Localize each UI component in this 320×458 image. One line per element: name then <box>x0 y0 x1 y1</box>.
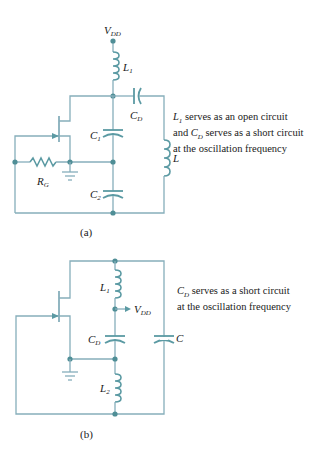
vdd-arrow-icon-b <box>125 306 131 312</box>
ground-icon-a <box>62 172 78 180</box>
note-b: CD serves as a short circuit at the osci… <box>177 285 291 313</box>
note-b-line-2: at the oscillation frequency <box>177 301 291 313</box>
vdd-node-a <box>110 38 115 43</box>
label-l2-b: L2 <box>99 382 110 396</box>
note-a-line-3: at the oscillation frequency <box>173 143 303 155</box>
note-a-line-2: and CD serves as a short circuit <box>173 127 303 143</box>
inductor-l1-b <box>115 270 121 298</box>
inductor-l-a <box>164 140 170 176</box>
source-wire-a <box>59 136 70 162</box>
inductor-l2-b <box>115 374 121 402</box>
label-l1-b: L1 <box>99 281 110 295</box>
ground-icon-b <box>62 372 78 380</box>
note-a: L1 serves as an open circuit and CD serv… <box>173 111 303 155</box>
note-b-line-1: CD serves as a short circuit <box>177 285 291 301</box>
label-rg-a: RG <box>36 175 49 189</box>
gate-arrow-icon-a <box>52 133 59 139</box>
resistor-rg-a <box>30 158 56 166</box>
colpitts-oscillator-schematic: VDD L1 CD C1 C2 RG L (a) <box>0 0 320 458</box>
circuit-a: VDD L1 CD C1 C2 RG L (a) <box>12 24 179 239</box>
label-l1-a: L1 <box>122 61 133 75</box>
label-vdd-a: VDD <box>104 24 121 38</box>
label-cd-b: CD <box>88 333 100 347</box>
label-c2-a: C2 <box>90 188 101 202</box>
note-a-line-1: L1 serves as an open circuit <box>173 111 303 127</box>
drain-wire-a <box>59 96 113 121</box>
label-vdd-b: VDD <box>134 303 151 317</box>
caption-b: (b) <box>80 428 93 441</box>
label-c-b: C <box>176 332 184 344</box>
label-cd-a: CD <box>130 109 142 123</box>
gate-arrow-icon-b <box>52 313 59 319</box>
inductor-l1-a <box>113 52 119 80</box>
label-c1-a: C1 <box>90 129 101 143</box>
circuit-b: L1 VDD CD C L2 (b) <box>16 258 184 441</box>
caption-a: (a) <box>80 226 93 239</box>
